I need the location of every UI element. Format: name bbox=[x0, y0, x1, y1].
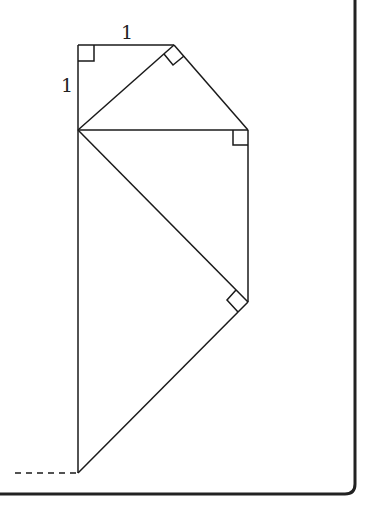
edge-4 bbox=[78, 302, 248, 473]
triangle-spiral bbox=[15, 45, 248, 473]
edge-2 bbox=[174, 45, 248, 130]
right-angle-marker-3 bbox=[233, 130, 248, 145]
hypotenuse-1 bbox=[78, 45, 174, 130]
hypotenuse-3 bbox=[78, 130, 248, 302]
label-left-edge: 1 bbox=[61, 74, 73, 96]
label-top-edge: 1 bbox=[121, 21, 133, 43]
right-angle-marker-1 bbox=[78, 45, 94, 61]
right-angle-marker-4 bbox=[227, 290, 238, 312]
right-angle-marker-2 bbox=[164, 54, 184, 65]
diagram-canvas: 1 1 bbox=[0, 0, 371, 524]
frame-border bbox=[0, 0, 355, 494]
